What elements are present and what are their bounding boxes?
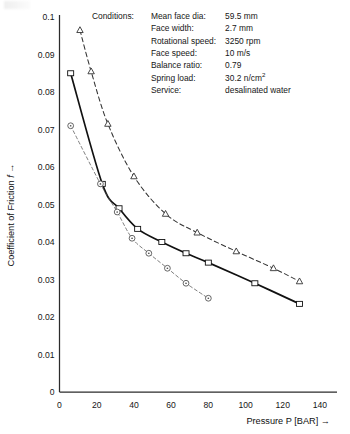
- x-tick-label: 140: [313, 400, 328, 410]
- condition-value-5-text: 30.2 n/cm: [225, 73, 262, 83]
- data-point-circle: [183, 280, 189, 286]
- y-axis-title: Coefficient of Friction f →: [6, 164, 16, 267]
- y-tick-label: 0.02: [38, 312, 55, 322]
- y-tick-label: 0: [50, 387, 55, 397]
- x-axis-tick-labels: 020406080100120140: [57, 400, 327, 410]
- condition-value-2: 3250 rpm: [225, 35, 291, 47]
- condition-label-5: Spring load:: [151, 72, 225, 84]
- conditions-row: Service: desalinated water: [92, 84, 291, 96]
- conditions-row: Face speed: 10 m/s: [92, 47, 291, 59]
- x-tick-label: 100: [238, 400, 253, 410]
- condition-value-5: 30.2 n/cm2: [225, 72, 291, 84]
- conditions-row: Conditions: Mean face dia: 59.5 mm: [92, 10, 291, 22]
- data-point-circle: [98, 181, 104, 187]
- condition-value-1: 2.7 mm: [225, 22, 291, 34]
- series-line: [71, 126, 209, 299]
- series-circle-curve: [68, 123, 211, 301]
- data-point-circle: [68, 123, 74, 129]
- y-tick-label: 0.08: [38, 87, 55, 97]
- series-line: [71, 73, 300, 304]
- y-tick-label: 0.05: [38, 200, 55, 210]
- condition-value-4: 0.79: [225, 59, 291, 71]
- data-point-square: [68, 71, 74, 76]
- conditions-row: Rotational speed: 3250 rpm: [92, 35, 291, 47]
- data-point-square: [205, 260, 211, 265]
- conditions-row: Face width: 2.7 mm: [92, 22, 291, 34]
- y-tick-label: 0.01: [38, 350, 55, 360]
- conditions-table: Conditions: Mean face dia: 59.5 mm Face …: [92, 10, 291, 96]
- data-point-triangle: [77, 27, 83, 33]
- x-tick-label: 20: [92, 400, 102, 410]
- condition-label-3: Face speed:: [151, 47, 225, 59]
- condition-value-6: desalinated water: [225, 84, 291, 96]
- scan-artifact: [4, 1, 30, 9]
- data-point-triangle: [296, 278, 302, 284]
- data-point-triangle: [194, 229, 200, 235]
- x-tick-label: 60: [166, 400, 176, 410]
- condition-value-3: 10 m/s: [225, 47, 291, 59]
- data-point-circle: [114, 209, 120, 215]
- y-axis-tick-labels: 00.010.020.030.040.050.060.070.080.090.1: [38, 12, 55, 397]
- condition-value-5-sup: 2: [262, 71, 265, 78]
- friction-pressure-chart: Conditions: Mean face dia: 59.5 mm Face …: [0, 0, 350, 434]
- y-tick-label: 0.1: [43, 12, 55, 22]
- data-point-triangle: [105, 120, 111, 126]
- y-tick-label: 0.07: [38, 125, 55, 135]
- condition-label-6: Service:: [151, 84, 225, 96]
- conditions-row: Balance ratio: 0.79: [92, 59, 291, 71]
- y-tick-label: 0.04: [38, 237, 55, 247]
- data-point-square: [159, 240, 165, 245]
- data-point-triangle: [131, 173, 137, 179]
- x-tick-label: 80: [204, 400, 214, 410]
- conditions-heading: Conditions:: [92, 10, 151, 22]
- x-tick-label: 0: [57, 400, 62, 410]
- x-tick-label: 120: [276, 400, 291, 410]
- data-point-triangle: [233, 248, 239, 254]
- y-tick-label: 0.06: [38, 162, 55, 172]
- data-point-circle: [146, 250, 152, 256]
- conditions-row: Spring load: 30.2 n/cm2: [92, 72, 291, 84]
- x-axis-title: Pressure P [BAR] →: [246, 416, 330, 426]
- y-tick-label: 0.03: [38, 275, 55, 285]
- data-point-square: [183, 251, 189, 256]
- condition-label-2: Rotational speed:: [151, 35, 225, 47]
- data-point-square: [252, 281, 258, 286]
- condition-label-0: Mean face dia:: [151, 10, 225, 22]
- data-point-circle: [165, 265, 171, 271]
- condition-label-1: Face width:: [151, 22, 225, 34]
- condition-label-4: Balance ratio:: [151, 59, 225, 71]
- y-tick-label: 0.09: [38, 50, 55, 60]
- data-point-square: [135, 226, 141, 231]
- x-tick-label: 40: [129, 400, 139, 410]
- data-point-circle: [205, 295, 211, 301]
- condition-value-0: 59.5 mm: [225, 10, 291, 22]
- data-point-square: [297, 301, 303, 306]
- data-point-circle: [129, 235, 135, 241]
